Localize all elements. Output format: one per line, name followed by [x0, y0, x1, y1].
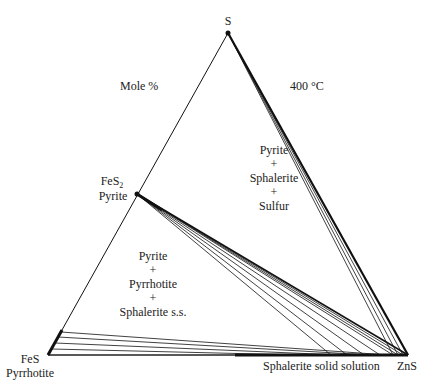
svg-text:Sphalerite: Sphalerite: [250, 171, 299, 185]
vertex-label-pyrrhotite: Pyrrhotite: [6, 366, 54, 380]
svg-text:+: +: [271, 185, 278, 199]
pyrite-point-dot: [135, 192, 140, 197]
svg-text:Pyrrhotite: Pyrrhotite: [129, 277, 177, 291]
svg-text:Sulfur: Sulfur: [259, 199, 289, 213]
svg-text:+: +: [150, 291, 157, 305]
svg-text:Sphalerite s.s.: Sphalerite s.s.: [120, 305, 187, 319]
pyrite-mineral-label: Pyrite: [99, 189, 128, 203]
header-left-label: Mole %: [120, 79, 158, 93]
pyrite-sphalerite-tielines: [137, 194, 408, 355]
lower-field-label: Pyrite + Pyrrhotite + Sphalerite s.s.: [120, 249, 187, 319]
header-right-label: 400 °C: [290, 79, 324, 93]
svg-text:Pyrite: Pyrite: [139, 249, 168, 263]
svg-text:+: +: [150, 263, 157, 277]
svg-text:+: +: [271, 157, 278, 171]
vertex-label-s: S: [225, 14, 232, 28]
sulfur-vertex-dot: [226, 31, 231, 36]
upper-field-label: Pyrite + Sphalerite + Sulfur: [250, 143, 299, 213]
svg-text:Pyrite: Pyrite: [260, 143, 289, 157]
base-label: Sphalerite solid solution: [263, 359, 380, 373]
ternary-diagram: S Mole % 400 °C FeS2 Pyrite Pyrite + Sph…: [0, 0, 438, 386]
vertex-label-zns: ZnS: [397, 359, 417, 373]
pyrite-formula-label: FeS2: [101, 174, 124, 190]
pyrrhotite-solid-solution: [48, 330, 62, 355]
vertex-label-fes: FeS: [21, 352, 40, 366]
